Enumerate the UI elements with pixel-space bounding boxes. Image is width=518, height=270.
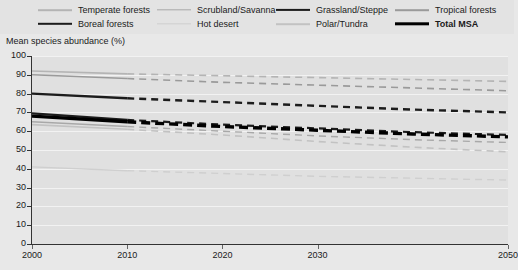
y-tick: [27, 150, 32, 151]
legend-item-hot-desert: Hot desert: [157, 17, 276, 31]
series-line: [127, 122, 508, 137]
legend-item-label: Scrubland/Savanna: [197, 5, 276, 15]
legend-item-polar-tundra: Polar/Tundra: [276, 17, 395, 31]
series-line: [127, 98, 508, 112]
legend-item-label: Grassland/Steppe: [316, 5, 388, 15]
legend-item-label: Hot desert: [197, 19, 239, 29]
legend-item-label: Polar/Tundra: [316, 19, 368, 29]
series-line: [32, 167, 127, 171]
legend-line-swatch: [38, 18, 72, 30]
legend-item-label: Tropical forests: [435, 5, 496, 15]
legend-line-swatch: [395, 18, 429, 30]
legend-item-scrubland-savanna: Scrubland/Savanna: [157, 3, 276, 17]
y-tick-label: 70: [0, 106, 26, 116]
chart-legend: Temperate forests Scrubland/Savanna Gras…: [0, 0, 514, 34]
y-tick-label: 100: [0, 50, 26, 60]
legend-row-top: Temperate forests Scrubland/Savanna Gras…: [38, 3, 514, 17]
series-line: [32, 71, 127, 74]
y-tick-label: 60: [0, 125, 26, 135]
y-tick-label: 80: [0, 88, 26, 98]
y-tick-label: 40: [0, 163, 26, 173]
y-tick-label: 10: [0, 219, 26, 229]
legend-item-grassland-steppe: Grassland/Steppe: [276, 3, 395, 17]
legend-line-swatch: [395, 4, 429, 16]
legend-line-swatch: [276, 18, 310, 30]
series-line: [127, 129, 508, 152]
series-line: [127, 79, 508, 91]
legend-row-bottom: Boreal forests Hot desert Polar/Tundra T…: [38, 17, 514, 31]
y-tick: [27, 225, 32, 226]
y-tick-label: 30: [0, 182, 26, 192]
x-tick: [32, 245, 33, 249]
y-tick-label: 50: [0, 144, 26, 154]
y-tick-label: 20: [0, 200, 26, 210]
series-line: [127, 74, 508, 82]
y-tick: [27, 131, 32, 132]
x-tick-label: 2030: [308, 250, 328, 260]
series-lines: [32, 56, 508, 244]
legend-item-label: Boreal forests: [78, 19, 134, 29]
x-tick-label: 2000: [22, 250, 42, 260]
series-line: [32, 75, 127, 79]
x-tick: [318, 245, 319, 249]
x-axis-line: [31, 244, 508, 245]
x-tick: [508, 245, 509, 249]
y-tick: [27, 169, 32, 170]
series-line: [127, 120, 508, 135]
legend-line-swatch: [276, 4, 310, 16]
legend-item-tropical-forests: Tropical forests: [395, 3, 514, 17]
legend-item-total-msa: Total MSA: [395, 17, 514, 31]
plot-area: [32, 56, 508, 244]
y-tick-label: 90: [0, 69, 26, 79]
y-tick: [27, 56, 32, 57]
x-tick: [222, 245, 223, 249]
legend-item-temperate-forests: Temperate forests: [38, 3, 157, 17]
series-line: [32, 94, 127, 99]
series-line: [127, 171, 508, 180]
x-tick-label: 2020: [212, 250, 232, 260]
y-tick: [27, 188, 32, 189]
legend-line-swatch: [157, 4, 191, 16]
legend-line-swatch: [157, 18, 191, 30]
y-tick: [27, 75, 32, 76]
y-tick: [27, 94, 32, 95]
legend-item-label: Temperate forests: [78, 5, 150, 15]
legend-item-label: Total MSA: [435, 19, 478, 29]
legend-item-boreal-forests: Boreal forests: [38, 17, 157, 31]
legend-line-swatch: [38, 4, 72, 16]
y-tick: [27, 112, 32, 113]
y-tick: [27, 206, 32, 207]
plot-wrapper: 0102030405060708090100 20002010202020302…: [0, 48, 514, 270]
y-tick-label: 0: [0, 238, 26, 248]
x-tick: [127, 245, 128, 249]
y-axis-title: Mean species abundance (%): [6, 36, 125, 46]
x-tick-label: 2010: [117, 250, 137, 260]
x-tick-label: 2050: [498, 250, 518, 260]
